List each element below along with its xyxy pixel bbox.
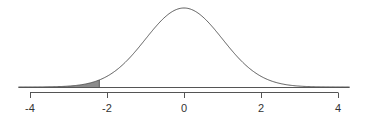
- density-curve: [18, 8, 349, 87]
- x-axis: -4-2024: [25, 93, 341, 115]
- x-tick-label: 4: [335, 102, 341, 114]
- x-tick-label: 2: [258, 102, 264, 114]
- normal-distribution-chart: -4-2024: [0, 0, 366, 123]
- x-tick-label: -2: [102, 102, 112, 114]
- x-tick-label: 0: [181, 102, 187, 114]
- x-tick-label: -4: [25, 102, 35, 114]
